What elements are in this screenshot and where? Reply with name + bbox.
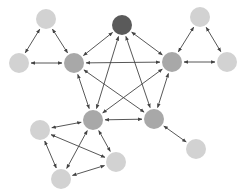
edge-leaf-top-right-leaf-right xyxy=(206,27,221,51)
node-core-bottom-right xyxy=(144,109,164,129)
edge-core-bottom-right-leaf-lower-right xyxy=(164,126,186,142)
node-leaf-lower-left xyxy=(30,120,50,140)
edge-core-left-core-bottom-left xyxy=(78,74,89,108)
node-core-right xyxy=(162,52,182,72)
edge-core-left-core-right xyxy=(86,62,160,63)
node-leaf-top-right xyxy=(190,7,210,27)
node-leaf-top-left xyxy=(36,9,56,29)
node-core-bottom-left xyxy=(83,110,103,130)
edge-leaf-bottom-core-bottom-left xyxy=(67,131,88,169)
edge-core-bottom-left-core-bottom-right xyxy=(105,119,142,120)
edge-leaf-lower-left-leaf-bottom xyxy=(45,141,57,168)
edge-hub-core-left xyxy=(83,32,112,55)
edge-hub-core-bottom-right xyxy=(126,36,150,107)
edge-leaf-top-left-core-left xyxy=(52,29,67,53)
edge-leaf-lower-left-leaf-lower-mid xyxy=(51,135,105,158)
edge-hub-core-right xyxy=(132,32,163,55)
node-leaf-left xyxy=(9,53,29,73)
edge-leaf-bottom-leaf-lower-mid xyxy=(72,166,104,176)
network-diagram xyxy=(0,0,249,193)
node-leaf-right xyxy=(217,52,237,72)
edge-core-right-core-bottom-left xyxy=(103,69,163,113)
edge-leaf-top-right-core-right xyxy=(178,27,193,52)
node-leaf-bottom xyxy=(51,169,71,189)
node-hub xyxy=(112,15,132,35)
node-leaf-lower-right xyxy=(186,139,206,159)
node-leaf-lower-mid xyxy=(106,152,126,172)
edge-core-right-core-bottom-right xyxy=(158,73,169,107)
edge-core-bottom-left-leaf-lower-mid xyxy=(99,131,110,152)
node-core-left xyxy=(64,53,84,73)
edge-leaf-top-left-leaf-left xyxy=(25,29,39,53)
edge-hub-core-bottom-left xyxy=(97,36,119,108)
edge-leaf-lower-left-core-bottom-left xyxy=(52,122,81,128)
edge-core-left-core-bottom-right xyxy=(84,70,144,112)
